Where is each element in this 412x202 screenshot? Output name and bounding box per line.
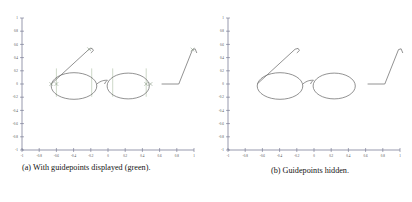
svg-text:0.2: 0.2 — [329, 154, 333, 158]
caption-a: (a) With guidepoints displayed (green). — [22, 163, 186, 174]
svg-text:-0.2: -0.2 — [13, 95, 19, 99]
bridge — [97, 80, 108, 84]
svg-text:0: 0 — [313, 154, 315, 158]
svg-text:0.8: 0.8 — [220, 29, 224, 33]
x-axis-tick-labels: -1 -0.8 -0.6 -0.4 -0.2 0 0.2 0.4 0.6 0.8… — [21, 154, 196, 158]
svg-text:-0.8: -0.8 — [13, 135, 19, 139]
panel-b: 1 0.8 0.6 0.4 0.2 0 -0.2 -0.4 -0.6 -0.8 … — [206, 0, 412, 202]
svg-text:-1: -1 — [227, 154, 230, 158]
svg-text:-0.6: -0.6 — [260, 154, 266, 158]
svg-text:0.4: 0.4 — [140, 154, 144, 158]
plot-b: 1 0.8 0.6 0.4 0.2 0 -0.2 -0.4 -0.6 -0.8 … — [206, 4, 412, 162]
svg-text:-0.8: -0.8 — [37, 154, 43, 158]
svg-text:-0.4: -0.4 — [277, 154, 283, 158]
svg-text:0.4: 0.4 — [14, 56, 18, 60]
svg-text:0.6: 0.6 — [14, 43, 18, 47]
axes-a: 1 0.8 0.6 0.4 0.2 0 -0.2 -0.4 -0.6 -0.8 … — [13, 16, 195, 158]
svg-text:0.8: 0.8 — [175, 154, 179, 158]
svg-text:-0.2: -0.2 — [294, 154, 300, 158]
glasses-drawing-b — [257, 48, 403, 99]
y-axis-tick-labels: 1 0.8 0.6 0.4 0.2 0 -0.2 -0.4 -0.6 -0.8 … — [219, 16, 225, 152]
svg-text:0.6: 0.6 — [220, 43, 224, 47]
svg-text:0.2: 0.2 — [220, 69, 224, 73]
svg-text:0.8: 0.8 — [381, 154, 385, 158]
plot-a: 1 0.8 0.6 0.4 0.2 0 -0.2 -0.4 -0.6 -0.8 … — [0, 4, 206, 162]
glasses-drawing-a — [51, 48, 197, 99]
svg-text:-0.4: -0.4 — [13, 109, 19, 113]
svg-text:-0.2: -0.2 — [219, 95, 225, 99]
left-temple — [257, 48, 299, 84]
svg-text:1: 1 — [193, 154, 195, 158]
right-lens — [313, 73, 355, 99]
svg-text:-0.2: -0.2 — [88, 154, 94, 158]
left-lens — [257, 73, 303, 100]
axes-b: 1 0.8 0.6 0.4 0.2 0 -0.2 -0.4 -0.6 -0.8 … — [219, 16, 401, 158]
panel-a: 1 0.8 0.6 0.4 0.2 0 -0.2 -0.4 -0.6 -0.8 … — [0, 0, 206, 202]
svg-text:-0.4: -0.4 — [71, 154, 77, 158]
plot-a-svg: 1 0.8 0.6 0.4 0.2 0 -0.2 -0.4 -0.6 -0.8 … — [0, 4, 206, 162]
svg-text:0.6: 0.6 — [158, 154, 162, 158]
svg-text:-1: -1 — [221, 148, 224, 152]
svg-text:-0.8: -0.8 — [243, 154, 249, 158]
svg-text:0.4: 0.4 — [346, 154, 350, 158]
guidepoint-markers — [49, 47, 194, 85]
svg-text:1: 1 — [399, 154, 401, 158]
right-lens — [107, 73, 149, 99]
svg-text:0: 0 — [222, 82, 224, 86]
bridge — [303, 80, 314, 84]
svg-text:0.4: 0.4 — [220, 56, 224, 60]
svg-text:-0.8: -0.8 — [219, 135, 225, 139]
svg-text:-0.6: -0.6 — [13, 122, 19, 126]
y-axis-tick-labels: 1 0.8 0.6 0.4 0.2 0 -0.2 -0.4 -0.6 -0.8 … — [13, 16, 19, 152]
svg-text:0.6: 0.6 — [364, 154, 368, 158]
left-temple — [51, 48, 93, 84]
svg-text:1: 1 — [222, 16, 224, 20]
svg-text:0: 0 — [107, 154, 109, 158]
svg-text:-1: -1 — [21, 154, 24, 158]
svg-text:0.2: 0.2 — [14, 69, 18, 73]
svg-text:0: 0 — [16, 82, 18, 86]
right-temple — [368, 49, 403, 84]
left-lens — [51, 73, 97, 100]
svg-text:-0.6: -0.6 — [54, 154, 60, 158]
svg-text:0.8: 0.8 — [14, 29, 18, 33]
x-axis-tick-labels: -1 -0.8 -0.6 -0.4 -0.2 0 0.2 0.4 0.6 0.8… — [227, 154, 402, 158]
figure-row: 1 0.8 0.6 0.4 0.2 0 -0.2 -0.4 -0.6 -0.8 … — [0, 0, 412, 202]
caption-b: (b) Guidepoints hidden. — [226, 166, 394, 177]
svg-text:-0.6: -0.6 — [219, 122, 225, 126]
svg-text:-1: -1 — [15, 148, 18, 152]
svg-text:-0.4: -0.4 — [219, 109, 225, 113]
svg-text:1: 1 — [16, 16, 18, 20]
plot-b-svg: 1 0.8 0.6 0.4 0.2 0 -0.2 -0.4 -0.6 -0.8 … — [206, 4, 412, 162]
right-temple — [162, 49, 197, 84]
svg-text:0.2: 0.2 — [123, 154, 127, 158]
